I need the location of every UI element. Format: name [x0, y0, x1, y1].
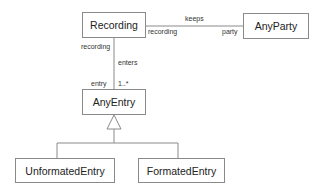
role-recording-enters: recording: [81, 43, 110, 50]
role-entry: entry: [91, 80, 107, 87]
class-formatedentry[interactable]: FormatedEntry: [138, 158, 225, 183]
class-name: AnyEntry: [93, 96, 136, 108]
class-name: UnformatedEntry: [25, 165, 104, 177]
role-recording-keeps: recording: [148, 28, 177, 35]
association-name-keeps: keeps: [185, 15, 204, 22]
class-name: FormatedEntry: [147, 165, 216, 177]
class-name: Recording: [90, 19, 138, 31]
role-party: party: [222, 28, 238, 35]
class-anyparty[interactable]: AnyParty: [243, 13, 309, 39]
generalization-triangle-icon: [107, 115, 121, 129]
class-unformatedentry[interactable]: UnformatedEntry: [15, 158, 115, 183]
association-name-enters: enters: [118, 59, 137, 66]
class-recording[interactable]: Recording: [82, 12, 146, 38]
class-anyentry[interactable]: AnyEntry: [82, 89, 146, 115]
class-name: AnyParty: [255, 20, 298, 32]
multiplicity-entry: 1..*: [118, 80, 129, 87]
